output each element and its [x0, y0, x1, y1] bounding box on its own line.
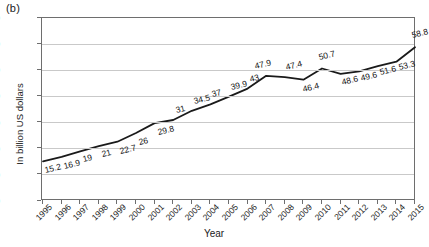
x-tick-label: 1999 [108, 202, 128, 222]
gridline [42, 174, 414, 175]
x-tick-mark [228, 200, 229, 204]
x-tick-mark [358, 200, 359, 204]
x-tick-mark [302, 200, 303, 204]
series-polyline [43, 47, 415, 161]
x-tick-label: 2015 [406, 202, 426, 222]
x-tick-mark [247, 200, 248, 204]
gridline [42, 148, 414, 149]
x-tick-mark [395, 200, 396, 204]
gridline [42, 70, 414, 71]
x-tick-label: 2005 [220, 202, 240, 222]
x-tick-mark [61, 200, 62, 204]
x-tick-label: 2013 [368, 202, 388, 222]
x-tick-label: 2014 [387, 202, 407, 222]
x-tick-mark [42, 200, 43, 204]
x-tick-label: 2000 [127, 202, 147, 222]
x-tick-label: 1998 [89, 202, 109, 222]
x-tick-mark [209, 200, 210, 204]
x-tick-mark [172, 200, 173, 204]
data-point-label: 58.8 [411, 27, 429, 41]
x-tick-mark [191, 200, 192, 204]
x-tick-mark [414, 200, 415, 204]
x-tick-label: 2003 [182, 202, 202, 222]
x-tick-label: 2001 [145, 202, 165, 222]
x-tick-label: 2008 [275, 202, 295, 222]
gridline [42, 44, 414, 45]
x-tick-mark [377, 200, 378, 204]
x-tick-mark [154, 200, 155, 204]
plot-area: 15.216.9192122.72629.83134.53739.94347.9… [41, 17, 415, 200]
x-tick-label: 2011 [332, 202, 352, 222]
x-tick-mark [321, 200, 322, 204]
x-tick-mark [116, 200, 117, 204]
x-tick-label: 2004 [201, 202, 221, 222]
y-axis-ticks: 010203040506070 [0, 17, 41, 200]
x-tick-mark [340, 200, 341, 204]
panel-label: (b) [6, 2, 20, 14]
gridline [42, 96, 414, 97]
data-point-label: 43 [248, 72, 260, 84]
x-tick-label: 2012 [350, 202, 370, 222]
x-tick-label: 2010 [313, 202, 333, 222]
x-tick-mark [135, 200, 136, 204]
x-tick-label: 1995 [34, 202, 54, 222]
x-tick-label: 1997 [71, 202, 91, 222]
x-tick-mark [79, 200, 80, 204]
gridline [42, 122, 414, 123]
x-axis-title: Year [0, 228, 428, 239]
x-tick-label: 2002 [164, 202, 184, 222]
x-tick-mark [284, 200, 285, 204]
x-tick-label: 2009 [294, 202, 314, 222]
x-tick-mark [98, 200, 99, 204]
x-tick-label: 2006 [238, 202, 258, 222]
x-tick-mark [265, 200, 266, 204]
x-tick-label: 2007 [257, 202, 277, 222]
x-tick-label: 1996 [52, 202, 72, 222]
